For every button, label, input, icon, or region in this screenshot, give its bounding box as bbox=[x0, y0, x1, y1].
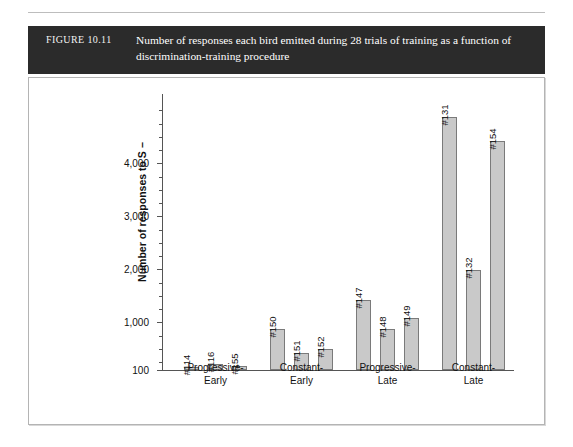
bar-value-label: #152 bbox=[315, 336, 326, 357]
y-tick-label: 1,000 bbox=[124, 317, 149, 328]
bar-value-label: #147 bbox=[353, 287, 364, 308]
y-tick-label: 3,000 bbox=[124, 211, 149, 222]
bar-154: #154 bbox=[490, 141, 505, 370]
bar-value-label: #148 bbox=[377, 317, 388, 338]
y-tick-label: 2,000 bbox=[124, 264, 149, 275]
y-tick-minor bbox=[159, 256, 163, 257]
y-tick-minor bbox=[159, 137, 163, 138]
y-tick-minor bbox=[159, 336, 163, 337]
y-axis-line bbox=[162, 94, 163, 371]
figure-frame: Number of responses to S − 1001,0002,000… bbox=[28, 77, 545, 425]
y-tick-minor bbox=[159, 150, 163, 151]
y-tick-minor bbox=[159, 110, 163, 111]
y-tick-minor bbox=[159, 296, 163, 297]
bar-value-label: #132 bbox=[463, 257, 474, 278]
y-tick-minor bbox=[159, 124, 163, 125]
category-label-line: Constant- bbox=[414, 362, 534, 375]
y-tick-label: 4,000 bbox=[124, 158, 149, 169]
y-tick-minor bbox=[159, 283, 163, 284]
figure-caption-bar: FIGURE 10.11 Number of responses each bi… bbox=[28, 26, 545, 74]
bar-131: #131 bbox=[442, 117, 457, 370]
figure-number-label: FIGURE 10.11 bbox=[46, 34, 112, 45]
bar-value-label: #131 bbox=[439, 104, 450, 125]
y-tick-major: 4,000 bbox=[157, 163, 162, 164]
y-tick-major: 2,000 bbox=[157, 269, 162, 270]
y-tick-major: 3,000 bbox=[157, 216, 162, 217]
category-label-line: Late bbox=[414, 375, 534, 388]
y-tick-label: 100 bbox=[132, 365, 149, 376]
y-tick-minor bbox=[159, 177, 163, 178]
y-tick-minor bbox=[159, 309, 163, 310]
y-tick-minor bbox=[159, 190, 163, 191]
plot-area: 1001,0002,0003,0004,000 #114#116#155#150… bbox=[162, 94, 514, 371]
bar-value-label: #149 bbox=[401, 305, 412, 326]
bar-value-label: #150 bbox=[267, 317, 278, 338]
bar-147: #147 bbox=[356, 300, 371, 370]
y-tick-major: 1,000 bbox=[157, 322, 162, 323]
figure-caption-text: Number of responses each bird emitted du… bbox=[136, 32, 532, 64]
bar-value-label: #151 bbox=[291, 340, 302, 361]
y-tick-minor bbox=[159, 203, 163, 204]
bar-132: #132 bbox=[466, 270, 481, 370]
y-tick-minor bbox=[159, 230, 163, 231]
y-tick-minor bbox=[159, 349, 163, 350]
bar-value-label: #154 bbox=[487, 128, 498, 149]
figure-page: FIGURE 10.11 Number of responses each bi… bbox=[0, 0, 573, 447]
y-tick-minor bbox=[159, 243, 163, 244]
page-top-rule bbox=[28, 12, 545, 13]
category-label-4: Constant-Late bbox=[414, 362, 534, 387]
